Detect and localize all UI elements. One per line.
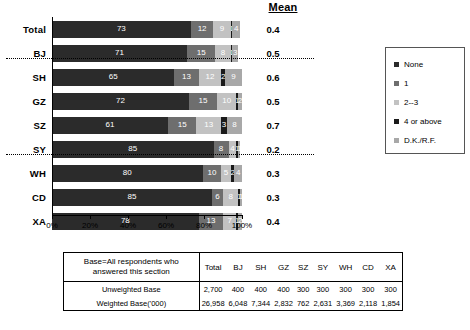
chart-row-label: CD bbox=[0, 192, 52, 203]
bar-segment: 13 bbox=[174, 69, 198, 86]
bar-segment: 12 bbox=[191, 21, 214, 38]
bar-segment-value: 1 bbox=[240, 193, 242, 201]
legend-item[interactable]: 2--3 bbox=[394, 93, 464, 112]
x-axis-tick-label: 0% bbox=[46, 221, 58, 230]
bar-segment-value: 15 bbox=[178, 121, 187, 129]
legend-item[interactable]: 4 or above bbox=[394, 112, 464, 131]
stacked-bar: 61151338 bbox=[52, 117, 242, 134]
bar-segment: 15 bbox=[189, 93, 218, 110]
x-axis-tick bbox=[166, 215, 167, 219]
x-axis-tick bbox=[52, 215, 53, 219]
x-axis-tick bbox=[204, 215, 205, 219]
mean-value: 0.5 bbox=[242, 96, 304, 107]
table-cell: 26,958 bbox=[199, 296, 226, 310]
bar-segment-value: 3 bbox=[233, 49, 237, 57]
bar-segment: 5 bbox=[221, 165, 230, 182]
chart-row: SY8584110.2 bbox=[0, 137, 320, 161]
table-cell: 762 bbox=[295, 296, 312, 310]
bar-segment-value: 10 bbox=[222, 97, 231, 105]
section-divider-top bbox=[6, 58, 314, 59]
x-axis-tick-label: 60% bbox=[158, 221, 174, 230]
chart-row-label: XA bbox=[0, 216, 52, 227]
bar-segment-value: 80 bbox=[123, 169, 132, 177]
section-divider-bottom bbox=[6, 154, 314, 155]
x-axis-tick-label: 80% bbox=[196, 221, 212, 230]
bar-segment: 15 bbox=[168, 117, 197, 134]
legend-swatch-icon bbox=[394, 81, 399, 86]
chart-row: SH651312290.6 bbox=[0, 65, 320, 89]
bar-segment-value: 1 bbox=[238, 145, 240, 153]
chart-row-label: BJ bbox=[0, 48, 52, 59]
base-table: Base=All respondents who answered this s… bbox=[64, 253, 402, 310]
table-cell: 300 bbox=[295, 282, 312, 297]
table-cell: 2,832 bbox=[272, 296, 295, 310]
bar-segment-value: 8 bbox=[221, 49, 225, 57]
x-axis-line bbox=[52, 215, 242, 216]
chart-y-axis-line bbox=[52, 17, 53, 215]
table-cell: 2,118 bbox=[357, 296, 379, 310]
bar-segment: 12 bbox=[199, 69, 222, 86]
table-cell: 400 bbox=[227, 282, 250, 297]
bar-segment: 80 bbox=[52, 165, 203, 182]
chart-row: GZ721510120.5 bbox=[0, 89, 320, 113]
table-column-header: GZ bbox=[272, 253, 295, 282]
stacked-bar: 8010524 bbox=[52, 165, 242, 182]
bar-segment: 8 bbox=[227, 117, 242, 134]
bar-segment-value: 2 bbox=[238, 97, 242, 105]
bar-segment-value: 85 bbox=[128, 145, 137, 153]
bar-segment-value: 15 bbox=[197, 49, 206, 57]
chart-row-label: SZ bbox=[0, 120, 52, 131]
table-cell: 300 bbox=[311, 282, 334, 297]
table-row: Unweighted Base2,70040040040030030030030… bbox=[64, 282, 402, 297]
legend-item[interactable]: 1 bbox=[394, 74, 464, 93]
table-cell: 2,631 bbox=[311, 296, 334, 310]
mean-value: 0.4 bbox=[242, 24, 304, 35]
legend-swatch-icon bbox=[394, 62, 399, 67]
x-axis-tick-label: 100% bbox=[232, 221, 252, 230]
bar-segment-value: 13 bbox=[204, 121, 213, 129]
chart-row: WH80105240.3 bbox=[0, 161, 320, 185]
bar-segment-value: 9 bbox=[220, 25, 224, 33]
bar-segment-value: 12 bbox=[206, 73, 215, 81]
bar-segment: 10 bbox=[217, 93, 236, 110]
stacked-bar-chart: Total73129140.4BJ71158130.5SH651312290.6… bbox=[0, 17, 320, 232]
mean-value: 0.3 bbox=[242, 168, 304, 179]
legend-item[interactable]: None bbox=[394, 55, 464, 74]
mean-value: 0.2 bbox=[242, 144, 304, 155]
chart-row-label: GZ bbox=[0, 96, 52, 107]
bar-segment-value: 5 bbox=[224, 169, 228, 177]
mean-value: 0.3 bbox=[242, 192, 304, 203]
bar-segment: 6 bbox=[212, 189, 223, 206]
x-axis-tick bbox=[90, 215, 91, 219]
bar-segment: 65 bbox=[52, 69, 174, 86]
chart-x-axis: 0%20%40%60%80%100% bbox=[52, 215, 242, 233]
table-row-label: Unweighted Base bbox=[64, 282, 199, 297]
chart-row: SZ611513380.7 bbox=[0, 113, 320, 137]
bar-segment-value: 4 bbox=[236, 169, 240, 177]
legend-item-label: 2--3 bbox=[404, 98, 418, 107]
legend-item[interactable]: D.K./R.F. bbox=[394, 131, 464, 150]
legend-swatch-icon bbox=[394, 138, 399, 143]
table-cell: 300 bbox=[334, 282, 357, 297]
base-table-container: Base=All respondents who answered this s… bbox=[63, 252, 403, 311]
bar-segment-value: 65 bbox=[109, 73, 118, 81]
stacked-bar: 856811 bbox=[52, 189, 242, 206]
chart-row-label: SH bbox=[0, 72, 52, 83]
bar-segment: 8 bbox=[223, 189, 238, 206]
table-column-header: XA bbox=[379, 253, 402, 282]
table-column-header: SZ bbox=[295, 253, 312, 282]
bar-segment-value: 12 bbox=[198, 25, 207, 33]
bar-segment-value: 61 bbox=[105, 121, 114, 129]
bar-segment-value: 8 bbox=[229, 193, 233, 201]
mean-column-header: Mean bbox=[253, 1, 313, 13]
table-column-header: BJ bbox=[227, 253, 250, 282]
bar-segment-value: 8 bbox=[219, 145, 223, 153]
bar-segment: 61 bbox=[52, 117, 168, 134]
bar-segment: 13 bbox=[196, 117, 221, 134]
chart-row-label: WH bbox=[0, 168, 52, 179]
bar-segment: 9 bbox=[225, 69, 242, 86]
mean-value: 0.6 bbox=[242, 72, 304, 83]
legend-item-label: 4 or above bbox=[404, 117, 442, 126]
bar-segment: 1 bbox=[240, 189, 242, 206]
x-axis-tick-label: 40% bbox=[120, 221, 136, 230]
